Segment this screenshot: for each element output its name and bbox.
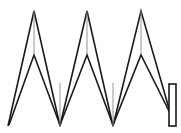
end-cap-rectangle bbox=[169, 84, 176, 126]
zigzag-lattice-drawing bbox=[0, 0, 181, 133]
figure-canvas bbox=[0, 0, 181, 133]
